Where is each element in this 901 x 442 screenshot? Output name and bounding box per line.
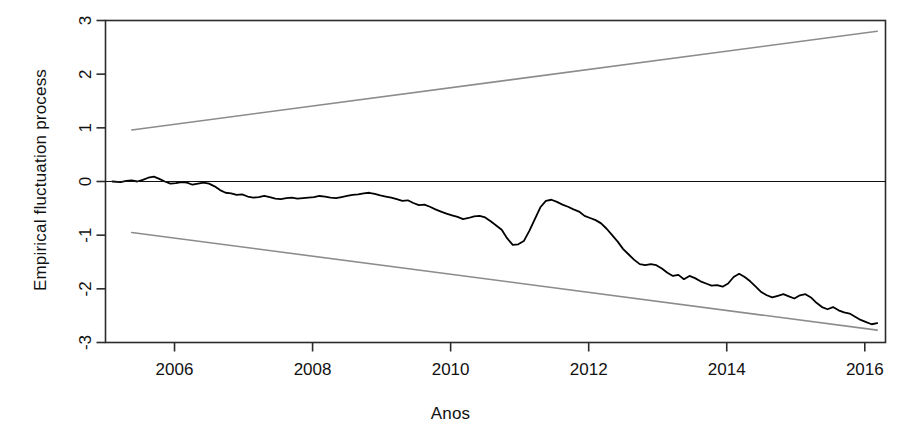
y-tick-label: -1 [76,228,95,243]
x-axis-ticks [175,343,865,352]
plot-canvas: 200620082010201220142016 -3-2-10123 [0,0,901,442]
x-axis-title: Anos [0,404,901,424]
boundary-upper [132,31,877,130]
x-tick-label: 2016 [846,360,884,379]
data-series-group [106,31,886,330]
efp-chart-figure: 200620082010201220142016 -3-2-10123 Empi… [0,0,901,442]
y-tick-label: -3 [76,335,95,350]
y-axis-ticks [97,21,106,343]
y-axis-title: Empirical fluctuation process [31,35,51,325]
x-tick-label: 2014 [708,360,746,379]
x-tick-label: 2010 [432,360,470,379]
cusum-path [112,177,877,325]
y-axis-tick-labels: -3-2-10123 [76,16,95,350]
x-tick-label: 2012 [570,360,608,379]
y-tick-label: 2 [76,69,95,78]
boundary-lower [132,232,877,330]
x-tick-label: 2008 [294,360,332,379]
y-tick-label: 3 [76,16,95,25]
x-tick-label: 2006 [156,360,194,379]
y-tick-label: 1 [76,123,95,132]
y-tick-label: 0 [76,177,95,186]
x-axis-tick-labels: 200620082010201220142016 [156,360,884,379]
y-tick-label: -2 [76,281,95,296]
